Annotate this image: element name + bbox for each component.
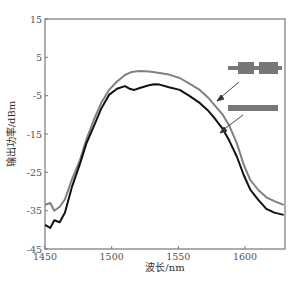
legend-segmented-waveguide-icon: [228, 62, 282, 74]
segmented-waveguide-curve: [45, 71, 284, 211]
y-tick-label: -25: [27, 167, 42, 178]
y-axis-label: 输出功率/dBm: [5, 100, 17, 167]
x-axis-label: 波长/nm: [145, 261, 185, 273]
x-tick-label: 1550: [166, 251, 190, 262]
y-tick-label: -15: [27, 129, 42, 140]
y-tick-label: -35: [27, 205, 42, 216]
y-tick-label: 5: [36, 52, 42, 63]
legend-uniform-waveguide-icon: [228, 105, 278, 111]
x-tick-label: 1450: [33, 251, 57, 262]
spectrum-chart: 155-5-15-25-35-45 1450150015501600 波长/nm…: [0, 0, 303, 286]
y-tick-label: -5: [33, 90, 42, 101]
x-axis-ticks: 1450150015501600: [33, 246, 257, 262]
y-tick-label: 15: [30, 14, 42, 25]
plot-frame: [45, 19, 285, 249]
x-tick-label: 1600: [233, 251, 257, 262]
series-layer: [45, 71, 284, 228]
x-tick-label: 1500: [100, 251, 124, 262]
